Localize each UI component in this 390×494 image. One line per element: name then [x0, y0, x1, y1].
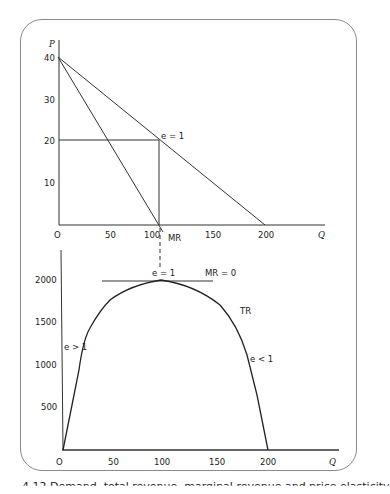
y-tick-1000: 1000	[35, 360, 57, 370]
e1-label: e = 1	[152, 268, 175, 278]
x-tick-50: 50	[108, 457, 119, 467]
mr-label: MR	[168, 233, 181, 243]
q-axis-label: Q	[318, 230, 325, 240]
top-chart: P 40 30 20 10 O 50 100 150 200 Q e = 1 M…	[44, 39, 325, 268]
x-tick-50: 50	[105, 230, 116, 240]
x-tick-100: 100	[154, 457, 170, 467]
y-tick-2000: 2000	[35, 275, 57, 285]
x-tick-150: 150	[205, 230, 221, 240]
bottom-chart: 2000 1500 1000 500 O 50 100 150 200 Q e …	[35, 250, 339, 467]
x-tick-100: 100	[144, 230, 160, 240]
x-tick-200: 200	[258, 230, 274, 240]
y-tick-10: 10	[44, 178, 55, 188]
p-axis-label: P	[48, 39, 55, 49]
q-axis-label: Q	[329, 457, 336, 467]
y-tick-20: 20	[44, 136, 55, 146]
mr-zero-label: MR = 0	[205, 268, 236, 278]
mr-line	[58, 57, 163, 232]
x-tick-200: 200	[260, 457, 276, 467]
y-tick-1500: 1500	[35, 317, 57, 327]
e-greater-than-1-label: e > 1	[64, 342, 87, 352]
demand-line	[58, 57, 265, 225]
bottom-y-axis	[61, 250, 63, 450]
tr-label: TR	[239, 306, 251, 316]
x-tick-origin: O	[54, 230, 61, 240]
x-tick-origin: O	[56, 457, 63, 467]
y-tick-500: 500	[41, 402, 57, 412]
y-tick-40: 40	[44, 53, 55, 63]
e1-label: e = 1	[161, 131, 184, 141]
y-tick-30: 30	[44, 95, 55, 105]
tr-curve	[63, 280, 268, 450]
x-tick-150: 150	[209, 457, 225, 467]
e-less-than-1-label: e < 1	[250, 354, 273, 364]
